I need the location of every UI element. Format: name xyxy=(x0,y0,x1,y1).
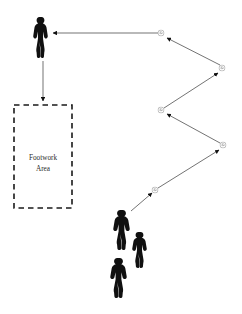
arrow-shuttle3-to-shuttle2 xyxy=(164,73,218,108)
footwork-area-zone: Footwork Area xyxy=(14,105,72,208)
player-receiver-icon xyxy=(33,17,48,58)
shuttle-icon-1 xyxy=(158,30,164,36)
shuttle-icon-3 xyxy=(158,107,164,113)
arrow-shuttle2-to-shuttle1 xyxy=(167,38,220,65)
footwork-area-label-line2: Area xyxy=(36,165,51,173)
arrow-shuttle5-to-shuttle4 xyxy=(158,150,219,188)
arrow-shuttle4-to-shuttle3 xyxy=(167,114,220,143)
footwork-drill-diagram: Footwork Area xyxy=(0,0,242,314)
shuttle-icon-2 xyxy=(219,65,225,71)
player-feeder-2-icon xyxy=(132,232,147,268)
footwork-area-label-line1: Footwork xyxy=(29,154,57,162)
diagram-canvas: Footwork Area xyxy=(0,0,242,314)
shuttle-icon-4 xyxy=(220,142,226,148)
player-feeder-3-icon xyxy=(110,258,126,298)
shuttle-icon-5 xyxy=(152,187,158,193)
player-feeder-1-icon xyxy=(113,210,129,250)
arrow-feeder-to-shuttle5 xyxy=(131,193,152,211)
arrow-layer xyxy=(43,33,220,211)
